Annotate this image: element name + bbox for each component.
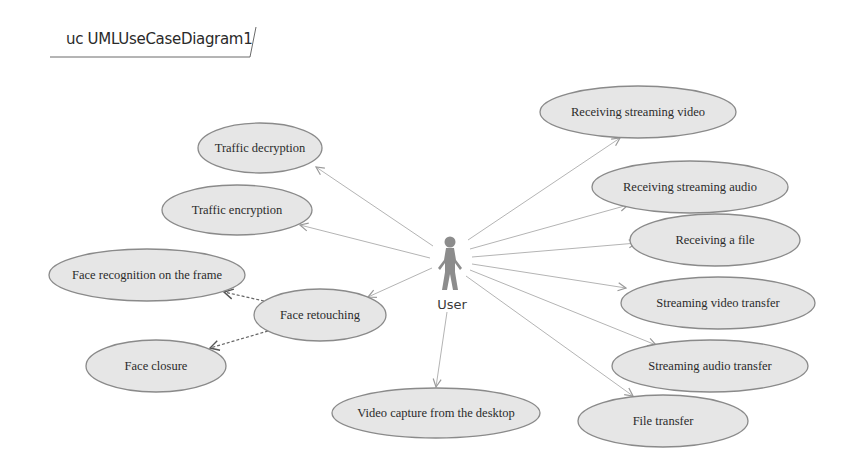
use-cases [49, 86, 815, 447]
use-case-label-receiving-a-file: Receiving a file [675, 233, 754, 248]
association-line-video-capture [436, 312, 447, 387]
association-line-streaming-video-transfer [472, 264, 626, 288]
association-line-file-transfer [466, 276, 633, 396]
use-case-label-streaming-audio-transfer: Streaming audio transfer [648, 359, 772, 374]
association-line-face-retouching [368, 268, 432, 297]
use-case-label-face-retouching: Face retouching [280, 308, 360, 323]
use-case-label-traffic-decryption: Traffic decryption [215, 141, 306, 156]
association-line-receiving-streaming-audio [470, 205, 628, 249]
use-case-label-face-recognition: Face recognition on the frame [72, 268, 222, 283]
use-case-label-face-closure: Face closure [125, 359, 188, 374]
diagram-title: uc UMLUseCaseDiagram1 [66, 30, 252, 48]
actor-user-icon[interactable] [438, 237, 462, 291]
dependency-line-face-recognition [224, 292, 264, 301]
dependency-line-face-closure [210, 331, 268, 348]
use-case-label-video-capture: Video capture from the desktop [357, 406, 515, 421]
use-case-label-traffic-encryption: Traffic encryption [192, 203, 283, 218]
association-line-traffic-encryption [300, 225, 430, 258]
association-line-traffic-decryption [316, 167, 433, 246]
use-case-label-receiving-streaming-audio: Receiving streaming audio [623, 180, 757, 195]
actor-user-label: User [437, 297, 467, 312]
association-line-receiving-a-file [472, 243, 637, 257]
use-case-diagram: uc UMLUseCaseDiagram1 User Traffic decry… [0, 0, 851, 468]
use-case-label-receiving-streaming-video: Receiving streaming video [571, 105, 705, 120]
use-case-label-streaming-video-transfer: Streaming video transfer [656, 296, 780, 311]
use-case-label-file-transfer: File transfer [633, 414, 694, 429]
